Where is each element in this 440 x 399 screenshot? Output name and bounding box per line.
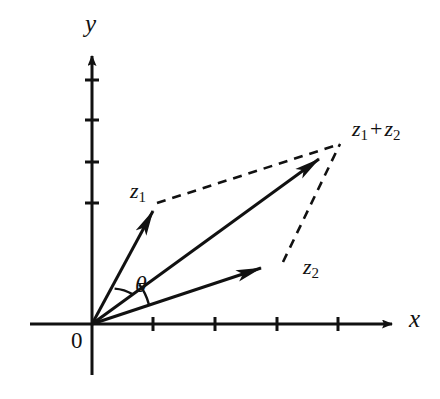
complex-plane-vector-diagram: y x 0 z1 z2 z1+z2 θ xyxy=(0,0,440,399)
vector-sum-label-subscript1: 1 xyxy=(361,127,368,143)
vector-sum-label-operator: + xyxy=(368,116,384,141)
dashed-line-from-z1-tip xyxy=(157,144,340,203)
vector-z1-label-base: z xyxy=(130,178,139,203)
vector-z1-label: z1 xyxy=(130,180,146,205)
vector-sum-label-base2: z xyxy=(384,116,393,141)
vector-z1-plus-z2 xyxy=(92,159,319,324)
dashed-line-from-z2-tip xyxy=(283,144,340,262)
vector-z2-label-subscript: 2 xyxy=(312,265,319,281)
diagram-canvas xyxy=(0,0,440,399)
vector-sum-label-subscript2: 2 xyxy=(393,127,400,143)
theta-angle-label: θ xyxy=(135,272,147,296)
vector-z2-label: z2 xyxy=(303,256,319,281)
angle-arc-z1-to-resultant xyxy=(115,289,133,295)
y-axis-label: y xyxy=(85,11,96,36)
vector-sum-label: z1+z2 xyxy=(352,118,401,143)
x-axis-label: x xyxy=(409,306,420,331)
vector-z2-label-base: z xyxy=(303,254,312,279)
vector-sum-label-base1: z xyxy=(352,116,361,141)
origin-label: 0 xyxy=(71,329,83,352)
vector-z1-label-subscript: 1 xyxy=(139,189,146,205)
